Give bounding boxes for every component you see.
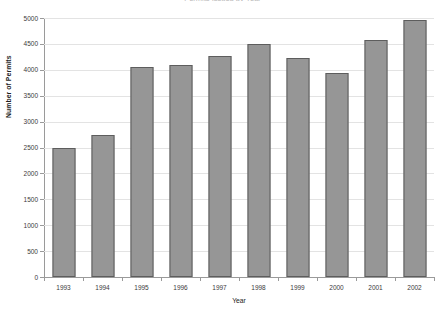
y-axis-tick-label: 2000: [2, 170, 38, 177]
x-axis-tick-label: 1998: [239, 284, 279, 292]
bar[interactable]: [247, 44, 270, 277]
y-axis-tick: [40, 173, 44, 174]
y-axis-tick-label: 4000: [2, 66, 38, 73]
bar-slot: [278, 18, 317, 277]
y-axis-tick-label: 3500: [2, 92, 38, 99]
x-axis-tick: [395, 277, 396, 281]
x-axis-tick: [356, 277, 357, 281]
bar[interactable]: [130, 67, 153, 277]
bar-slot: [317, 18, 356, 277]
plot-area: [44, 18, 434, 277]
bar[interactable]: [364, 40, 387, 277]
y-axis-tick-label: 1000: [2, 222, 38, 229]
bar-slot: [122, 18, 161, 277]
x-axis-tick: [278, 277, 279, 281]
bar[interactable]: [91, 135, 114, 277]
bar-chart: Permits Issued by Year Number of Permits…: [0, 0, 445, 317]
y-axis-tick-label: 500: [2, 248, 38, 255]
y-axis-tick: [40, 70, 44, 71]
bar-slot: [200, 18, 239, 277]
bar-slot: [239, 18, 278, 277]
x-axis-title: Year: [44, 297, 434, 304]
bar-slot: [44, 18, 83, 277]
y-axis-tick: [40, 251, 44, 252]
x-axis-tick: [44, 277, 45, 281]
bar[interactable]: [169, 65, 192, 277]
x-axis-tick-label: 1995: [122, 284, 162, 292]
bar-slot: [356, 18, 395, 277]
x-axis-tick: [239, 277, 240, 281]
x-axis-tick-label: 1994: [83, 284, 123, 292]
bar[interactable]: [286, 58, 309, 277]
y-axis-tick-label: 3000: [2, 118, 38, 125]
x-axis-tick: [317, 277, 318, 281]
x-axis-tick: [83, 277, 84, 281]
bar-slot: [161, 18, 200, 277]
y-axis-tick: [40, 148, 44, 149]
x-axis-tick: [434, 277, 435, 281]
y-axis-tick-label: 5000: [2, 15, 38, 22]
y-axis-tick: [40, 225, 44, 226]
y-axis-tick-label: 1500: [2, 196, 38, 203]
y-axis-tick-labels: 0500100015002000250030003500400045005000: [0, 0, 38, 317]
x-axis-tick-label: 2001: [356, 284, 396, 292]
bar[interactable]: [52, 148, 75, 278]
x-axis-tick-label: 2000: [317, 284, 357, 292]
bar[interactable]: [208, 56, 231, 277]
y-axis-tick: [40, 44, 44, 45]
y-axis-tick: [40, 199, 44, 200]
x-axis-tick-label: 1993: [44, 284, 84, 292]
x-axis-tick-label: 1999: [278, 284, 318, 292]
bar-slot: [395, 18, 434, 277]
x-axis-tick: [122, 277, 123, 281]
bar[interactable]: [325, 73, 348, 277]
bar-slot: [83, 18, 122, 277]
x-axis-tick-label: 1996: [161, 284, 201, 292]
y-axis-tick-label: 2500: [2, 144, 38, 151]
y-axis-tick: [40, 96, 44, 97]
y-axis-tick-label: 4500: [2, 40, 38, 47]
y-axis-tick: [40, 122, 44, 123]
x-axis-tick-label: 2002: [395, 284, 435, 292]
x-axis-tick: [161, 277, 162, 281]
bar[interactable]: [403, 20, 426, 277]
chart-title: Permits Issued by Year: [0, 0, 445, 1]
y-axis-tick-label: 0: [2, 274, 38, 281]
x-axis-tick: [200, 277, 201, 281]
x-axis-tick-label: 1997: [200, 284, 240, 292]
y-axis-tick: [40, 18, 44, 19]
